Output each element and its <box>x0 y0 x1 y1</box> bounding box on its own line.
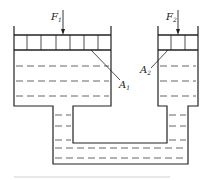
left-piston <box>14 35 111 50</box>
leader-line-a1 <box>91 50 120 80</box>
label-f2: F2 <box>165 11 177 23</box>
label-a1: A1 <box>118 79 130 91</box>
label-a2: A2 <box>139 64 151 76</box>
vessel-outline <box>14 26 198 164</box>
right-piston <box>158 35 198 50</box>
fluid-level-lines <box>16 66 196 158</box>
hydraulic-press-diagram: F1 F2 A1 A2 <box>0 0 209 180</box>
leader-line-a2 <box>151 50 168 68</box>
label-f1: F1 <box>50 11 62 23</box>
caption-bar <box>14 176 170 178</box>
